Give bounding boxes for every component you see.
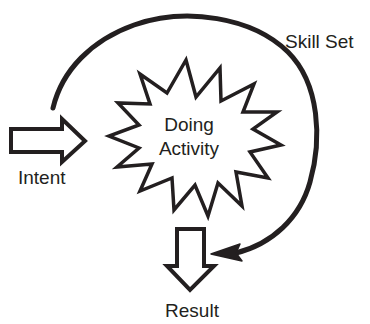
intent-arrow-shape [11, 119, 85, 162]
diagram-canvas: Doing Activity Intent Result Skill Set [0, 0, 370, 324]
activity-label-line1: Doing [164, 114, 214, 135]
intent-block-arrow [11, 119, 85, 162]
result-label: Result [165, 300, 220, 321]
result-block-arrow [167, 229, 214, 290]
result-arrow-shape [167, 229, 214, 290]
activity-starburst: Doing Activity [109, 60, 281, 216]
intent-label: Intent [18, 167, 66, 188]
skill-set-label: Skill Set [285, 31, 354, 52]
diagram-svg: Doing Activity Intent Result Skill Set [0, 0, 370, 324]
activity-label-line2: Activity [159, 138, 220, 159]
